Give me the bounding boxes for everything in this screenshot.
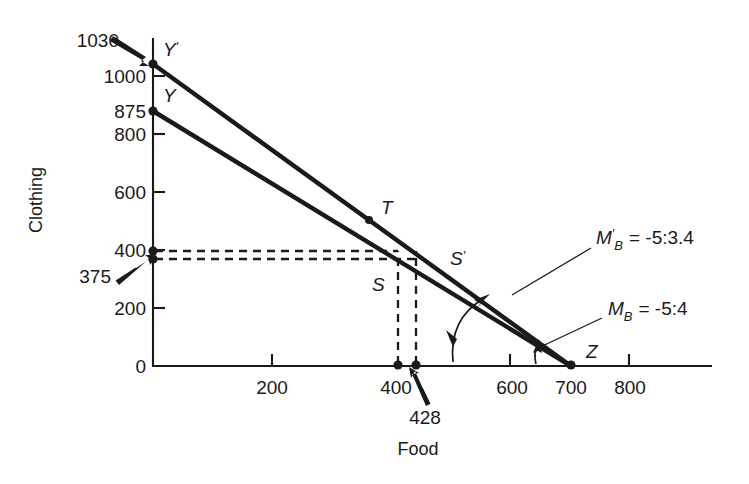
- x-tick-labels: 200 400 600 700 800 428: [256, 377, 646, 428]
- chart-svg: 1030 1000 875 800 600 400 375 200 0 200 …: [0, 0, 749, 484]
- shift-arrow-head-lower-icon: [446, 330, 462, 347]
- m-b-subscript: B: [624, 309, 633, 324]
- m-b-base: M: [608, 298, 624, 319]
- arrow-to-375-leader: [116, 268, 136, 281]
- chart-figure: 1030 1000 875 800 600 400 375 200 0 200 …: [0, 0, 749, 484]
- y-tick-label-800: 800: [114, 124, 146, 145]
- point-t: [365, 216, 373, 224]
- annotation-428: [409, 367, 430, 406]
- annotation-m-prime-b: M′B= -5:3.4: [512, 226, 694, 295]
- point-400-x-axis: [393, 360, 402, 369]
- m-prime-b-base: M: [596, 227, 612, 248]
- point-y: [148, 106, 157, 115]
- budget-line-m-prime: [153, 64, 571, 366]
- x-tick-label-700: 700: [555, 377, 587, 398]
- y-tick-labels: 1030 1000 875 800 600 400 375 200 0: [77, 30, 146, 377]
- point-labels-group: Y′ Y T S S′ Z: [163, 39, 599, 362]
- m-b-value: = -5:4: [639, 298, 689, 319]
- y-tick-label-400: 400: [114, 240, 146, 261]
- x-tick-label-800: 800: [614, 377, 646, 398]
- point-label-s-prime-mark: ′: [463, 248, 466, 263]
- m-prime-b-label: M′B= -5:3.4: [596, 226, 694, 253]
- x-tick-label-600: 600: [496, 377, 528, 398]
- budget-lines-group: [153, 64, 571, 366]
- m-prime-b-subscript: B: [614, 238, 623, 253]
- point-y-prime: [148, 59, 157, 68]
- point-label-t: T: [381, 197, 394, 218]
- m-prime-b-leader: [512, 248, 591, 295]
- point-label-y-prime-mark: ′: [176, 39, 179, 54]
- y-tick-label-875: 875: [114, 101, 146, 122]
- x-tick-label-428: 428: [409, 407, 441, 428]
- y-tick-label-200: 200: [114, 298, 146, 319]
- point-label-s: S: [372, 274, 385, 295]
- point-z: [566, 360, 575, 369]
- y-axis-title: Clothing: [26, 167, 46, 233]
- point-label-y-prime: Y′: [163, 39, 179, 60]
- arrow-to-428-icon: [409, 367, 430, 406]
- y-tick-label-375: 375: [79, 266, 111, 287]
- point-label-z: Z: [585, 341, 599, 362]
- annotation-1030: [110, 36, 149, 66]
- point-400-y-axis: [148, 246, 157, 255]
- x-tick-label-200: 200: [256, 377, 288, 398]
- y-tick-label-1000: 1000: [104, 66, 146, 87]
- point-label-s-prime-base: S: [450, 248, 463, 269]
- x-axis-title: Food: [397, 439, 438, 459]
- m-prime-b-value: = -5:3.4: [629, 227, 694, 248]
- dashed-guides-group: [155, 251, 416, 364]
- point-label-s-prime: S′: [450, 248, 466, 269]
- y-tick-label-600: 600: [114, 182, 146, 203]
- annotation-m-b: MB= -5:4: [536, 298, 688, 349]
- point-label-y: Y: [163, 85, 177, 106]
- arrow-to-1030-icon: [110, 36, 149, 66]
- point-428-x-axis: [411, 360, 420, 369]
- m-b-label: MB= -5:4: [608, 298, 688, 324]
- x-tick-label-400: 400: [380, 377, 412, 398]
- budget-line-m: [153, 111, 571, 366]
- y-tick-label-0: 0: [135, 356, 146, 377]
